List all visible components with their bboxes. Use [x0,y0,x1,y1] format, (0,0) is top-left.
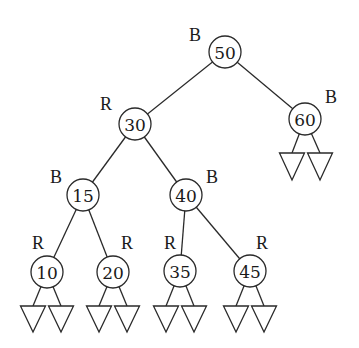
tree-node-10: 10 [31,256,63,288]
tree-node-50: 50 [209,36,241,68]
nil-leaf-triangle-icon [49,306,74,332]
node-color-label: B [206,167,218,187]
node-color-label: R [100,94,112,114]
node-color-label: B [50,167,62,187]
node-key: 35 [169,262,191,282]
nil-leaf-triangle-icon [308,153,333,180]
tree-node-20: 20 [97,256,129,288]
node-key: 40 [175,186,197,206]
nil-leaf-triangle-icon [182,306,207,332]
tree-node-40: 40 [170,179,202,211]
nil-leaf-triangle-icon [87,306,112,332]
node-key: 30 [124,115,146,135]
red-black-tree-diagram: 503060154010203545 BRBBBRRRR [0,0,359,348]
tree-node-45: 45 [234,255,266,287]
nil-leaf-triangle-icon [280,153,305,180]
node-color-label: B [325,87,337,107]
node-color-label: B [189,25,201,45]
tree-node-60: 60 [289,103,321,135]
nil-leaf-triangle-icon [224,306,249,332]
node-key: 10 [36,263,58,283]
tree-svg: 503060154010203545 BRBBBRRRR [0,0,359,348]
node-key: 20 [102,263,124,283]
node-color-label: R [256,233,268,253]
tree-node-30: 30 [119,108,151,140]
node-color-label: R [121,233,133,253]
tree-node-35: 35 [164,255,196,287]
node-key: 15 [72,186,94,206]
nil-leaf-triangle-icon [252,306,277,332]
nil-leaves-layer [21,153,333,332]
nil-leaf-triangle-icon [115,306,140,332]
tree-node-15: 15 [67,179,99,211]
node-color-label: R [32,233,44,253]
node-key: 45 [239,262,261,282]
node-key: 50 [214,43,236,63]
tree-edge [135,52,225,124]
nil-leaf-triangle-icon [21,306,46,332]
nil-leaf-triangle-icon [154,306,179,332]
node-key: 60 [294,110,316,130]
node-color-label: R [164,233,176,253]
